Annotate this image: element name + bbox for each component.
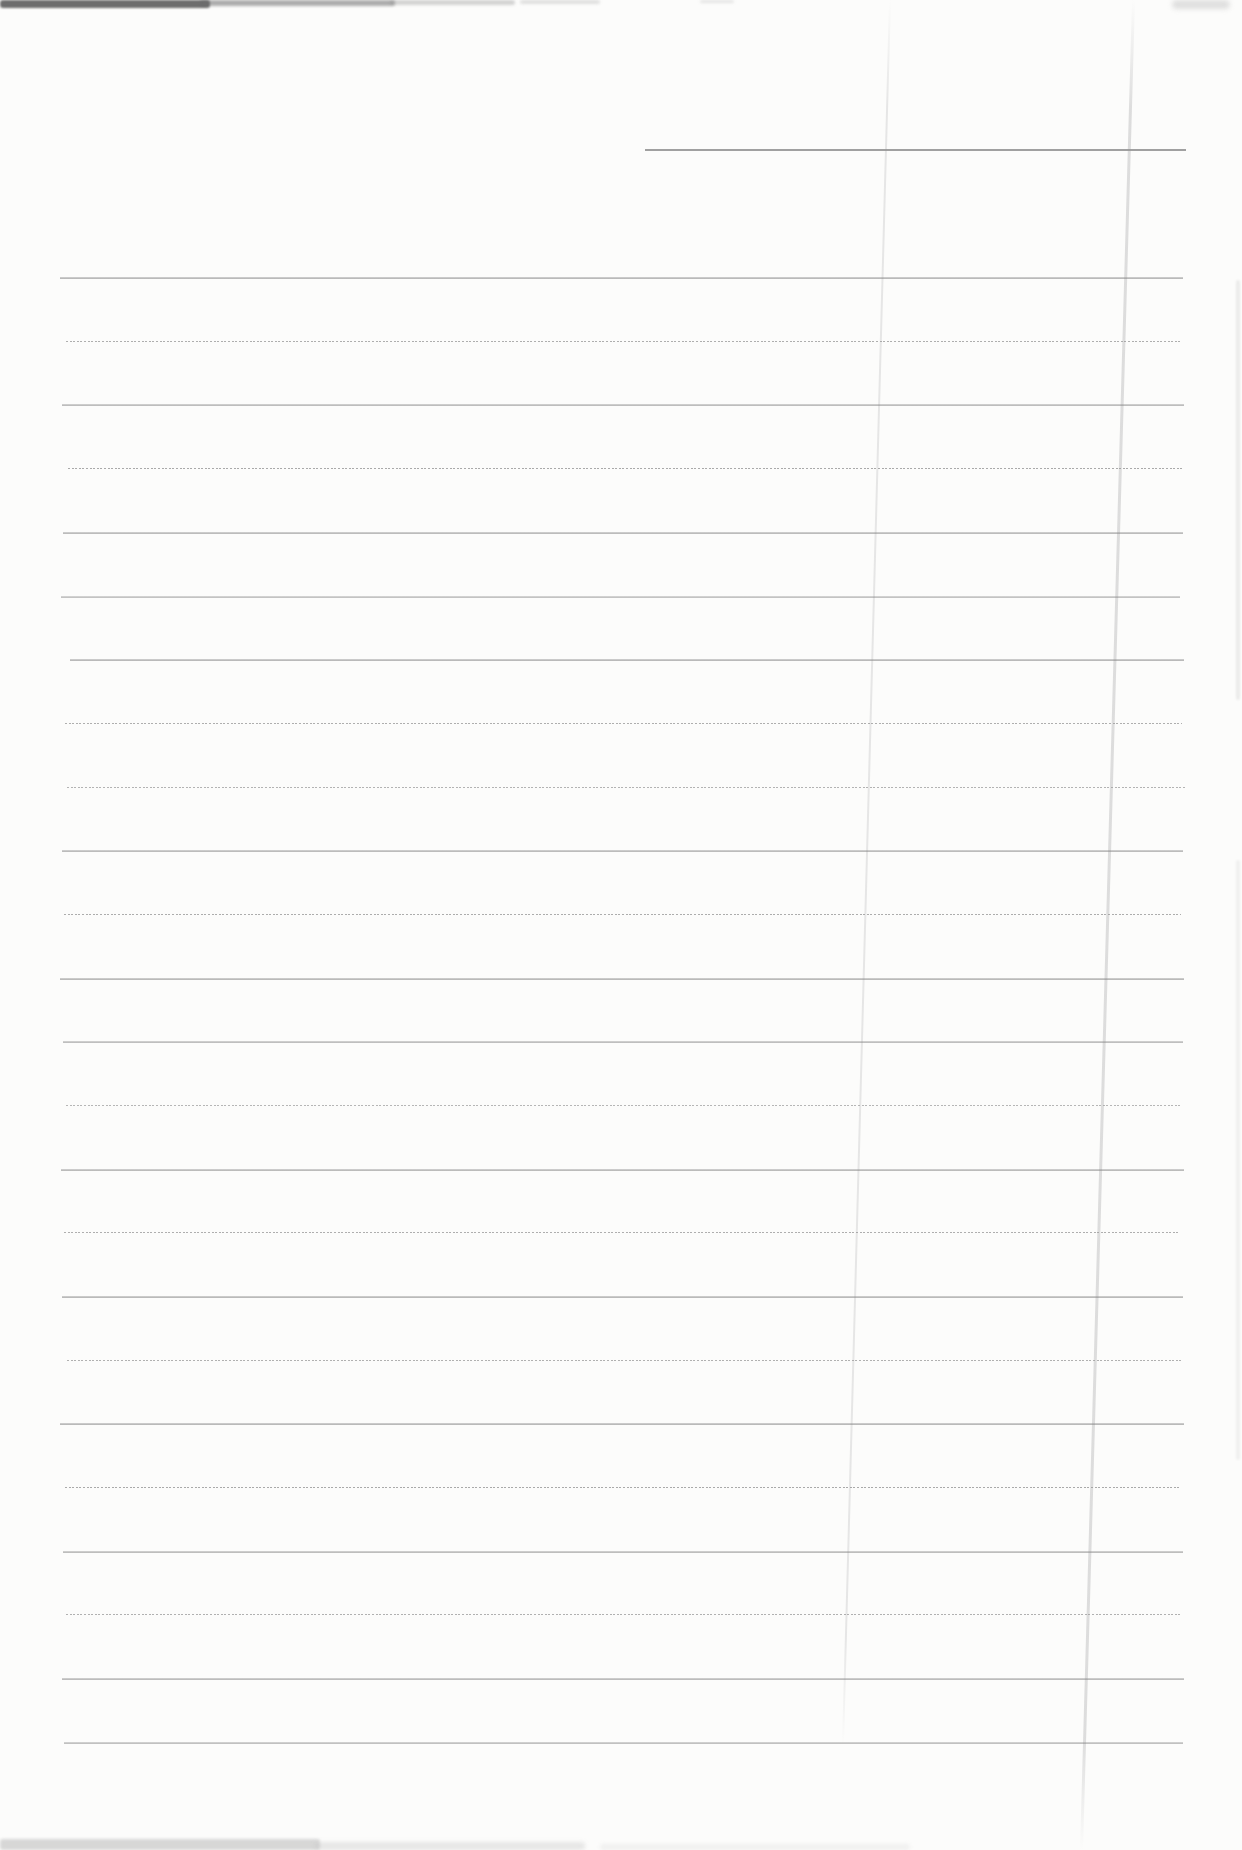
scan-artifact-top-edge-dark (0, 0, 210, 8)
scan-artifact-top-edge-mid (200, 0, 395, 6)
scan-artifacts-layer (0, 0, 1242, 1850)
scan-artifact-top-speck (700, 0, 734, 3)
scan-artifact-bottom-edge-mid (315, 1842, 585, 1850)
scanned-notebook-page (0, 0, 1242, 1850)
scan-artifact-bottom-edge-fade (600, 1844, 910, 1850)
scan-artifact-bottom-edge-left (0, 1839, 320, 1850)
scan-artifact-top-edge-specks (520, 0, 600, 4)
scan-artifact-right-edge-lower (1236, 860, 1240, 1460)
scan-artifact-top-edge-fade (390, 0, 515, 5)
scan-artifact-top-right-smudge (1172, 0, 1230, 9)
scan-artifact-right-edge-upper (1236, 280, 1240, 700)
